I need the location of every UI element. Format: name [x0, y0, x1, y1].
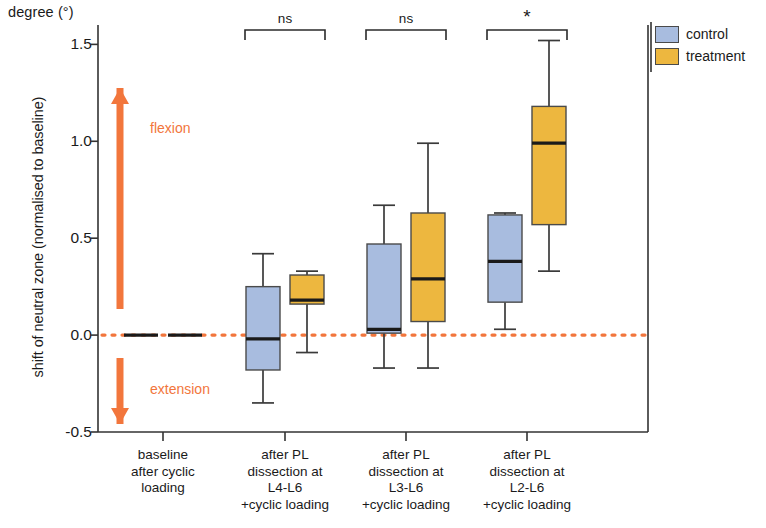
significance-bracket — [245, 30, 325, 40]
legend-item: control — [655, 24, 765, 44]
legend: controltreatment — [655, 24, 765, 68]
box-plot-control-4 — [488, 213, 522, 329]
flexion-annotation-label: flexion — [150, 120, 190, 136]
legend-item-label: treatment — [686, 48, 745, 64]
significance-bracket — [487, 30, 567, 40]
box-plot-treatment-4 — [532, 41, 566, 272]
box-plot-control-3 — [367, 205, 401, 368]
x-category-label: after PL dissection at L3-L6 +cyclic loa… — [347, 447, 465, 513]
legend-item-label: control — [686, 26, 728, 42]
x-category-label: after PL dissection at L4-L6 +cyclic loa… — [226, 447, 344, 513]
legend-color-swatch — [655, 26, 679, 43]
box-plot-treatment-2 — [290, 271, 324, 352]
flexion-arrow-up — [111, 88, 129, 309]
box-plot-figure: degree (°) shift of neutral zone (normal… — [0, 0, 766, 528]
significance-label: ns — [278, 11, 292, 26]
significance-label: * — [523, 9, 530, 25]
extension-arrow-down — [111, 358, 129, 424]
x-category-label: after PL dissection at L2-L6 +cyclic loa… — [468, 447, 586, 513]
significance-label: ns — [399, 11, 413, 26]
x-category-label: baseline after cyclic loading — [104, 447, 222, 497]
significance-bracket — [366, 30, 446, 40]
legend-color-swatch — [655, 48, 679, 65]
extension-annotation-label: extension — [150, 381, 210, 397]
legend-item: treatment — [655, 46, 765, 66]
box-plot-control-2 — [246, 254, 280, 403]
